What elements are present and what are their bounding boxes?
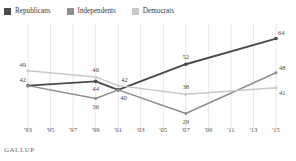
plot-area: 42444052643629484946423841 bbox=[0, 22, 296, 130]
legend-swatch-democrats bbox=[132, 8, 139, 15]
point-label: 40 bbox=[120, 94, 127, 101]
legend-swatch-republicans bbox=[4, 8, 11, 15]
source-label: GALLUP bbox=[4, 146, 35, 154]
point-label: 42 bbox=[121, 76, 128, 83]
data-point-republicans bbox=[184, 62, 188, 66]
point-label: 29 bbox=[183, 118, 190, 125]
x-tick-label: '09 bbox=[204, 126, 212, 133]
series-line-independents bbox=[28, 73, 276, 114]
data-point-democrats bbox=[27, 69, 30, 72]
data-point-democrats bbox=[275, 86, 278, 89]
legend-item-republicans[interactable]: Republicans bbox=[4, 8, 51, 15]
legend-label-democrats: Democrats bbox=[143, 8, 174, 15]
point-label: 41 bbox=[279, 89, 286, 96]
data-point-republicans bbox=[274, 37, 278, 41]
point-label: 44 bbox=[92, 85, 99, 92]
legend-item-democrats[interactable]: Democrats bbox=[132, 8, 174, 15]
point-label: 42 bbox=[19, 76, 26, 83]
legend-item-independents[interactable]: Independents bbox=[67, 8, 116, 15]
x-tick-label: '93 bbox=[24, 126, 32, 133]
data-point-independents bbox=[275, 71, 278, 74]
point-label: 46 bbox=[92, 66, 99, 73]
data-point-democrats bbox=[117, 84, 120, 87]
data-point-independents bbox=[117, 88, 120, 91]
gallup-line-chart: Republicans Independents Democrats 42444… bbox=[0, 0, 296, 161]
series-layer bbox=[26, 37, 278, 115]
data-point-independents bbox=[27, 84, 30, 87]
data-point-democrats bbox=[94, 76, 97, 79]
legend-swatch-independents bbox=[67, 8, 74, 15]
x-tick-label: '15 bbox=[272, 126, 280, 133]
gridlines bbox=[28, 24, 276, 128]
plot-svg: 42444052643629484946423841 bbox=[0, 22, 296, 130]
x-tick-label: '07 bbox=[182, 126, 190, 133]
point-label: 52 bbox=[183, 53, 190, 60]
x-tick-label: '13 bbox=[250, 126, 258, 133]
x-tick-label: '11 bbox=[227, 126, 235, 133]
data-point-democrats bbox=[184, 93, 187, 96]
series-line-republicans bbox=[28, 39, 276, 90]
data-point-independents bbox=[94, 97, 97, 100]
legend-label-republicans: Republicans bbox=[15, 8, 51, 15]
point-label: 49 bbox=[19, 61, 26, 68]
point-label: 48 bbox=[279, 64, 286, 71]
x-tick-label: '01 bbox=[114, 126, 122, 133]
legend-label-independents: Independents bbox=[78, 8, 116, 15]
x-tick-label: '05 bbox=[159, 126, 167, 133]
x-tick-label: '03 bbox=[137, 126, 145, 133]
point-label: 38 bbox=[183, 83, 190, 90]
x-axis-tick-labels: '93'95'97'99'01'03'05'07'09'11'13'15 bbox=[0, 126, 296, 140]
chart-legend: Republicans Independents Democrats bbox=[4, 6, 174, 18]
data-point-independents bbox=[184, 112, 187, 115]
point-label: 36 bbox=[92, 103, 99, 110]
data-point-republicans bbox=[94, 80, 98, 84]
x-tick-label: '97 bbox=[69, 126, 77, 133]
x-tick-label: '99 bbox=[92, 126, 100, 133]
x-tick-label: '95 bbox=[47, 126, 55, 133]
point-label: 64 bbox=[278, 29, 285, 36]
